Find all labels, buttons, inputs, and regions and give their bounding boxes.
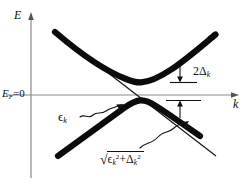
gap-up-arrowhead xyxy=(177,101,183,107)
gap-down-arrowhead xyxy=(177,77,183,83)
x-axis-label: k xyxy=(233,98,238,110)
fermi-level-symbol: E xyxy=(2,87,9,99)
gap-delta-symbol: Δ xyxy=(199,64,207,78)
dispersion-squiggle-path xyxy=(140,123,183,148)
radicand-delta-superscript: 2 xyxy=(137,153,140,161)
epsilon-k-label: ϵk xyxy=(58,110,67,126)
gap-label: 2Δk xyxy=(193,65,210,79)
fermi-level-label: EF=0 xyxy=(2,88,25,101)
y-axis-arrowhead xyxy=(28,12,34,20)
gap-subscript: k xyxy=(207,70,210,79)
fermi-level-value: =0 xyxy=(13,87,25,99)
radicand-delta-symbol: Δ xyxy=(126,152,134,166)
epsilon-subscript: k xyxy=(63,116,67,125)
upper-branch-curve xyxy=(55,32,216,82)
radicand-group: ϵk2+Δk2 xyxy=(107,151,144,167)
dispersion-figure: E k EF=0 2Δk ϵk √ϵk2+Δk2 xyxy=(0,0,251,185)
dispersion-formula-label: √ϵk2+Δk2 xyxy=(100,151,144,167)
lower-branch-curve xyxy=(58,100,200,156)
y-axis-label: E xyxy=(14,9,21,21)
